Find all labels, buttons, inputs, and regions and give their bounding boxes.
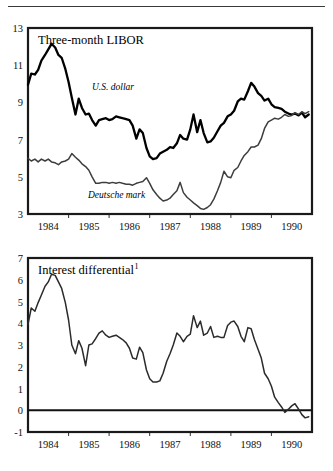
libor-x-tick-labels: 1984 1985 1986 1987 1988 1989 1990 [38, 221, 302, 232]
libor-ytick-7: 7 [18, 135, 23, 146]
diff-ytick-3: 3 [18, 340, 23, 351]
differential-svg: 7 6 5 4 3 2 1 0 -1 1984 1985 1986 1987 1… [0, 250, 333, 465]
libor-ytick-13: 13 [13, 23, 24, 34]
libor-ytick-11: 11 [13, 60, 23, 71]
diff-xtick-1990: 1990 [281, 439, 302, 450]
differential-x-tick-labels: 1984 1985 1986 1987 1988 1989 1990 [38, 439, 302, 450]
diff-xtick-1984: 1984 [38, 439, 60, 450]
libor-y-tick-labels: 13 11 9 7 5 3 [13, 23, 24, 220]
libor-xtick-1990: 1990 [281, 221, 302, 232]
diff-ytick-neg1: -1 [14, 427, 23, 438]
diff-xtick-1987: 1987 [160, 439, 181, 450]
libor-xtick-1986: 1986 [119, 221, 140, 232]
libor-xtick-1989: 1989 [241, 221, 262, 232]
diff-ytick-2: 2 [18, 362, 23, 373]
series-label-deutsche-mark: Deutsche mark [87, 190, 146, 200]
libor-xtick-1988: 1988 [200, 221, 221, 232]
chart-panel-interest-differential: 7 6 5 4 3 2 1 0 -1 1984 1985 1986 1987 1… [0, 250, 333, 465]
libor-ytick-9: 9 [18, 97, 23, 108]
diff-ytick-7: 7 [18, 253, 23, 264]
libor-xtick-1985: 1985 [78, 221, 99, 232]
libor-svg: 13 11 9 7 5 3 1984 1985 1986 1987 1988 1… [0, 20, 333, 238]
top-divider-rule [8, 6, 325, 7]
diff-ytick-1: 1 [18, 384, 23, 395]
differential-y-tick-labels: 7 6 5 4 3 2 1 0 -1 [14, 253, 24, 438]
diff-xtick-1985: 1985 [78, 439, 99, 450]
diff-xtick-1988: 1988 [200, 439, 221, 450]
libor-ytick-5: 5 [18, 172, 23, 183]
series-label-us-dollar: U.S. dollar [92, 82, 134, 92]
differential-title-footnote-marker: 1 [134, 262, 138, 271]
diff-ytick-0: 0 [18, 405, 23, 416]
libor-ytick-3: 3 [18, 209, 23, 220]
figure-container: 13 11 9 7 5 3 1984 1985 1986 1987 1988 1… [0, 0, 333, 471]
differential-plot-frame [28, 258, 312, 432]
diff-ytick-6: 6 [18, 275, 23, 286]
libor-xtick-1984: 1984 [38, 221, 60, 232]
diff-xtick-1986: 1986 [119, 439, 140, 450]
diff-ytick-5: 5 [18, 297, 23, 308]
diff-ytick-4: 4 [18, 318, 24, 329]
diff-xtick-1989: 1989 [241, 439, 262, 450]
libor-xtick-1987: 1987 [160, 221, 181, 232]
chart-panel-three-month-libor: 13 11 9 7 5 3 1984 1985 1986 1987 1988 1… [0, 20, 333, 238]
